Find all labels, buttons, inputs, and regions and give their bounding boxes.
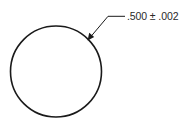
dimension-label: .500 ± .002 <box>127 9 178 23</box>
leader-line <box>91 16 126 37</box>
